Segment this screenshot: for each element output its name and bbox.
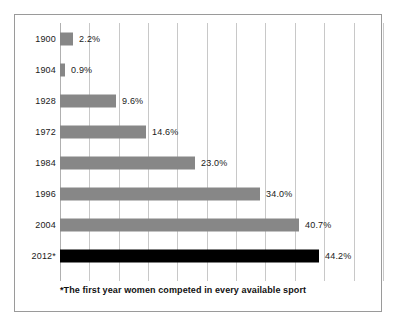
- chart-frame: 19002.2%19040.9%19289.6%197214.6%198423.…: [14, 14, 382, 312]
- value-label-1928: 9.6%: [122, 96, 143, 106]
- value-label-2004: 40.7%: [305, 220, 332, 230]
- value-label-1900: 2.2%: [79, 34, 100, 44]
- value-label-2012: 44.2%: [325, 251, 352, 261]
- bar-1972: [60, 125, 146, 138]
- category-label-2012: 2012*: [15, 251, 56, 261]
- chart-footnote: *The first year women competed in every …: [60, 285, 306, 295]
- category-label-1996: 1996: [15, 189, 56, 199]
- bar-1984: [60, 156, 195, 169]
- bar-1900: [60, 32, 73, 45]
- category-label-1904: 1904: [15, 65, 56, 75]
- value-label-1984: 23.0%: [201, 158, 228, 168]
- bar-row: 19289.6%: [15, 85, 381, 116]
- category-label-2004: 2004: [15, 220, 56, 230]
- category-label-1984: 1984: [15, 158, 56, 168]
- bar-chart-plot-area: 19002.2%19040.9%19289.6%197214.6%198423.…: [15, 15, 381, 311]
- bar-row: 197214.6%: [15, 116, 381, 147]
- bar-1928: [60, 94, 116, 107]
- category-label-1928: 1928: [15, 96, 56, 106]
- bar-row: 19002.2%: [15, 23, 381, 54]
- gridline: [383, 23, 384, 281]
- bar-2012: [60, 249, 319, 262]
- bar-1904: [60, 63, 65, 76]
- value-label-1996: 34.0%: [266, 189, 293, 199]
- bar-row: 2012*44.2%: [15, 240, 381, 271]
- bar-row: 200440.7%: [15, 209, 381, 240]
- category-label-1900: 1900: [15, 34, 56, 44]
- bar-row: 199634.0%: [15, 178, 381, 209]
- value-label-1972: 14.6%: [152, 127, 179, 137]
- bar-2004: [60, 218, 299, 231]
- bar-row: 19040.9%: [15, 54, 381, 85]
- bar-row: 198423.0%: [15, 147, 381, 178]
- category-label-1972: 1972: [15, 127, 56, 137]
- bar-1996: [60, 187, 260, 200]
- value-label-1904: 0.9%: [71, 65, 92, 75]
